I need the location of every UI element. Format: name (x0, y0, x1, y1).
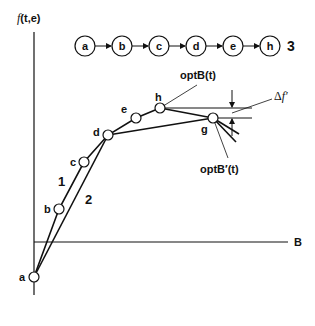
point-h (155, 103, 165, 113)
optB-prime-label: optB′(t) (200, 163, 239, 175)
label-b: b (44, 203, 51, 215)
point-d (103, 130, 113, 140)
point-a (29, 272, 39, 282)
label-c: c (70, 156, 76, 168)
svg-text:e: e (230, 40, 236, 52)
x-axis-label: B (294, 236, 302, 248)
label-h: h (155, 91, 162, 103)
svg-text:h: h (267, 40, 274, 52)
chain-diagram: a b c d e h 3 (75, 36, 295, 56)
delta-leader (232, 99, 272, 113)
label-e: e (121, 103, 127, 115)
optB-prime-leader (213, 118, 228, 158)
optB-leader (160, 85, 197, 108)
svg-text:b: b (119, 40, 126, 52)
label-a: a (19, 271, 26, 283)
y-axis-label: f(t,e) (17, 11, 41, 25)
svg-text:c: c (156, 40, 162, 52)
diagram-canvas: f(t,e) B a b c d e h 3 Δf′ (0, 0, 315, 326)
path-h-g (160, 108, 213, 118)
optB-label: optB(t) (180, 69, 216, 81)
svg-text:d: d (193, 40, 200, 52)
label-g: g (201, 123, 208, 135)
label-d: d (93, 126, 100, 138)
point-g (208, 113, 218, 123)
svg-text:a: a (82, 40, 89, 52)
path-1-label: 1 (58, 174, 65, 189)
path-d-g (108, 118, 213, 135)
path-2-label: 2 (85, 192, 92, 207)
point-b (54, 204, 64, 214)
delta-f-label: Δf′ (274, 89, 288, 103)
chain-label: 3 (287, 38, 295, 54)
point-e (131, 113, 141, 123)
point-c (79, 157, 89, 167)
